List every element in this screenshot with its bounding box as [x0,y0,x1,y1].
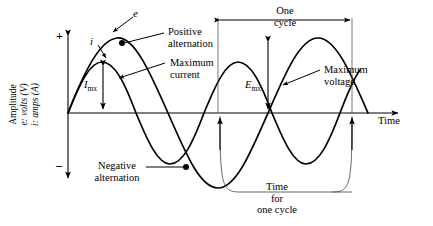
positive-alternation-leader [124,33,164,43]
minus-sign-label: – [56,160,62,172]
voltage-leader-line [113,17,133,32]
maximum-voltage-callout: Maximum voltage [324,64,368,87]
ac-sine-wave-figure: Amplitude e: volts (V) i: amps (A) + – T… [0,0,433,226]
time-for-one-cycle-line1: Time [244,181,310,193]
e-max-subscript: mx [251,84,261,93]
waveform-canvas [0,0,433,226]
amplitude-axis-label: Amplitude e: volts (V) i: amps (A) [8,59,41,151]
one-cycle-callout: One cycle [258,5,312,28]
time-for-one-cycle-line2: for [244,193,310,205]
positive-alternation-line1: Positive [168,26,213,38]
negative-alternation-callout: Negative alternation [86,160,148,183]
i-max-subscript: mx [88,84,98,93]
positive-alternation-line2: alternation [168,38,213,50]
amplitude-axis-label-line2: e: volts (V) [19,59,30,151]
time-for-one-cycle-callout: Time for one cycle [244,181,310,216]
maximum-current-line1: Maximum [170,57,214,69]
maximum-current-callout: Maximum current [170,57,214,80]
maximum-voltage-line2: voltage [324,76,368,88]
maximum-current-leader [119,63,165,78]
current-curve-label: i [90,36,93,48]
negative-alternation-line2: alternation [86,172,148,184]
amplitude-axis-label-line3: i: amps (A) [30,59,41,151]
maximum-current-line2: current [170,69,214,81]
amplitude-axis-label-line1: Amplitude [8,59,19,151]
one-cycle-line2: cycle [258,17,312,29]
voltage-curve-label: e [133,8,138,20]
maximum-voltage-line1: Maximum [324,64,368,76]
maximum-voltage-leader [283,70,320,85]
time-axis-label: Time [378,115,400,127]
plus-sign-label: + [56,31,63,43]
time-for-one-cycle-line3: one cycle [244,204,310,216]
one-cycle-line1: One [258,5,312,17]
negative-alternation-line1: Negative [86,160,148,172]
positive-alternation-callout: Positive alternation [168,26,213,49]
